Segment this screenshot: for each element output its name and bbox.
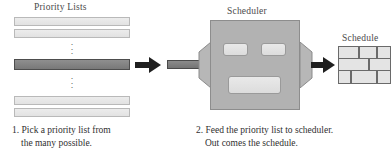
diagram-canvas: Priority Lists · · · · · · Scheduler	[0, 0, 392, 158]
priority-list-bar-selected[interactable]	[14, 59, 130, 70]
scheduler-slot-left	[223, 43, 248, 56]
schedule-brick	[377, 70, 391, 84]
caption-step-1: 1. Pick a priority list from the many po…	[12, 124, 111, 149]
ellipsis-upper: · · ·	[67, 42, 77, 56]
scheduler-slot-bottom	[228, 76, 281, 94]
ellipsis-lower: · · ·	[67, 76, 77, 90]
caption-step-2-line-2: Out comes the schedule.	[196, 137, 333, 150]
caption-step-1-line-1: 1. Pick a priority list from	[12, 125, 111, 135]
priority-list-bar[interactable]	[14, 96, 130, 105]
scheduler-label: Scheduler	[227, 6, 267, 16]
priority-list-bar[interactable]	[14, 29, 130, 38]
output-arrow-icon	[311, 56, 335, 78]
caption-step-2: 2. Feed the priority list to scheduler. …	[196, 124, 333, 149]
schedule-label: Schedule	[342, 33, 378, 43]
scheduler-box[interactable]	[210, 20, 300, 110]
schedule-brick	[351, 70, 377, 84]
priority-list-bar[interactable]	[14, 108, 130, 117]
schedule-grid[interactable]	[338, 46, 390, 84]
caption-step-1-line-2: the many possible.	[12, 137, 111, 150]
scheduler-slot-right	[261, 43, 286, 56]
schedule-brick	[338, 70, 351, 84]
priority-list-bar[interactable]	[14, 17, 130, 26]
caption-step-2-line-1: 2. Feed the priority list to scheduler.	[196, 125, 333, 135]
priority-lists-label: Priority Lists	[34, 2, 87, 12]
feed-arrow-icon	[135, 56, 161, 78]
